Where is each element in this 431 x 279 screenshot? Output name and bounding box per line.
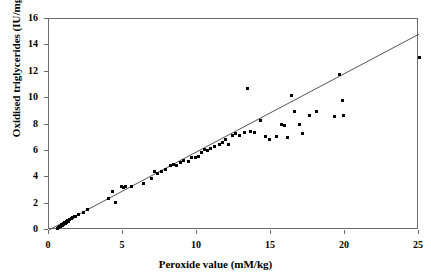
x-tick-label: 15 — [255, 240, 285, 250]
data-point — [301, 132, 304, 135]
y-tick-label: 10 — [0, 92, 38, 102]
x-tick-label: 5 — [107, 240, 137, 250]
data-point — [238, 134, 241, 137]
data-point — [124, 185, 127, 188]
data-point — [338, 73, 341, 76]
data-point — [283, 124, 286, 127]
data-point — [293, 110, 296, 113]
x-tick-label: 25 — [403, 240, 431, 250]
data-point — [259, 119, 262, 122]
y-tick-label: 8 — [0, 119, 38, 129]
data-point — [418, 56, 421, 59]
data-point — [156, 172, 159, 175]
y-tick-label: 2 — [0, 198, 38, 208]
data-point — [290, 94, 293, 97]
y-axis-title: Oxidised triglycerides (IU/mg/ml) — [10, 0, 22, 162]
data-point — [227, 143, 230, 146]
data-point — [164, 168, 167, 171]
y-tick-label: 12 — [0, 66, 38, 76]
data-point — [246, 87, 249, 90]
x-axis-title: Peroxide value (mM/kg) — [0, 258, 431, 270]
x-tick-label: 10 — [181, 240, 211, 250]
data-point — [175, 164, 178, 167]
data-point — [150, 177, 153, 180]
data-point — [264, 135, 267, 138]
data-point — [107, 197, 110, 200]
data-point — [77, 213, 80, 216]
data-point — [197, 155, 200, 158]
data-point — [213, 145, 216, 148]
y-tick-label: 0 — [0, 224, 38, 234]
data-point — [160, 170, 163, 173]
data-point — [111, 190, 114, 193]
data-point — [333, 115, 336, 118]
data-point — [206, 149, 209, 152]
data-point — [308, 114, 311, 117]
x-tick-label: 0 — [33, 240, 63, 250]
data-point — [249, 130, 252, 133]
trendline — [49, 19, 419, 230]
data-point — [179, 161, 182, 164]
y-tick-label: 16 — [0, 13, 38, 23]
data-point — [234, 132, 237, 135]
data-point — [275, 135, 278, 138]
plot-area — [48, 18, 418, 229]
data-point — [315, 110, 318, 113]
scatter-chart: Oxidised triglycerides (IU/mg/ml) Peroxi… — [0, 0, 431, 279]
data-point — [209, 147, 212, 150]
data-point — [286, 136, 289, 139]
data-point — [187, 160, 190, 163]
x-tick-mark — [344, 230, 345, 234]
data-point — [243, 131, 246, 134]
data-point — [86, 208, 89, 211]
data-point — [130, 185, 133, 188]
data-point — [253, 131, 256, 134]
y-tick-label: 4 — [0, 171, 38, 181]
x-tick-mark — [418, 230, 419, 234]
x-tick-mark — [196, 230, 197, 234]
data-point — [298, 123, 301, 126]
data-point — [142, 182, 145, 185]
x-tick-label: 20 — [329, 240, 359, 250]
x-tick-mark — [270, 230, 271, 234]
data-point — [82, 211, 85, 214]
x-tick-mark — [48, 230, 49, 234]
data-point — [182, 159, 185, 162]
data-point — [342, 114, 345, 117]
data-point — [224, 138, 227, 141]
data-point — [268, 138, 271, 141]
data-point — [341, 99, 344, 102]
y-tick-label: 14 — [0, 39, 38, 49]
x-tick-mark — [122, 230, 123, 234]
data-point — [114, 201, 117, 204]
y-tick-label: 6 — [0, 145, 38, 155]
data-point — [200, 151, 203, 154]
data-point — [221, 141, 224, 144]
data-point — [190, 156, 193, 159]
